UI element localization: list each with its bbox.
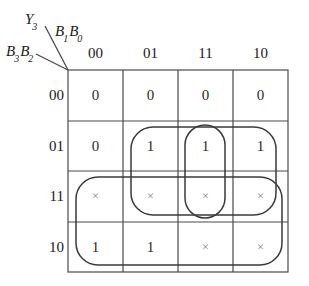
cell-r1c0: 0 bbox=[68, 121, 123, 171]
cell-r2c0: × bbox=[68, 171, 123, 221]
cell-r3c3: × bbox=[233, 222, 288, 272]
cell-r1c1: 1 bbox=[123, 121, 178, 171]
cell-r2c3: × bbox=[233, 171, 288, 221]
cell-r0c2: 0 bbox=[178, 70, 233, 120]
cell-r1c3: 1 bbox=[233, 121, 288, 171]
cell-r3c0: 1 bbox=[68, 222, 123, 272]
karnaugh-map-diagram: Y3 B1B0 B3B2 00 01 11 10 00 01 11 10 bbox=[0, 0, 309, 286]
cell-r1c2: 1 bbox=[178, 121, 233, 171]
corner-diagonal-lines bbox=[36, 26, 68, 70]
cell-r0c0: 0 bbox=[68, 70, 123, 120]
cell-r0c3: 0 bbox=[233, 70, 288, 120]
cell-r3c2: × bbox=[178, 222, 233, 272]
cell-r3c1: 1 bbox=[123, 222, 178, 272]
cell-r2c2: × bbox=[178, 171, 233, 221]
cell-r2c1: × bbox=[123, 171, 178, 221]
cell-r0c1: 0 bbox=[123, 70, 178, 120]
